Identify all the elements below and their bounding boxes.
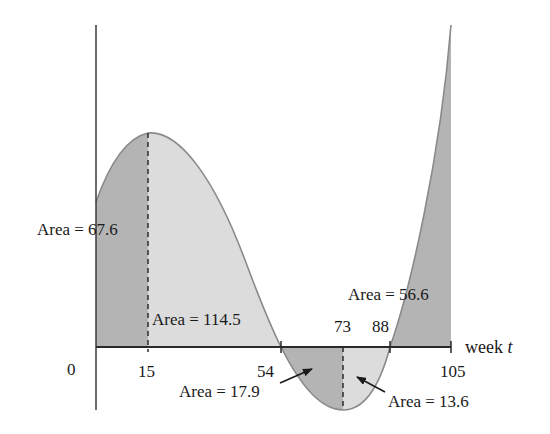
area-label-56-6: Area = 56.6	[348, 286, 429, 303]
x-axis-variable: t	[507, 337, 512, 357]
tick-label-15: 15	[138, 363, 155, 380]
area-label-13-6: Area = 13.6	[388, 393, 469, 410]
tick-label-0: 0	[67, 361, 76, 378]
region-73-88	[343, 347, 390, 410]
area-chart	[0, 0, 550, 434]
area-label-17-9: Area = 17.9	[179, 383, 260, 400]
x-axis-label-text: week	[465, 337, 507, 357]
x-axis-label: week t	[465, 338, 513, 356]
area-label-114-5: Area = 114.5	[152, 311, 241, 328]
tick-label-105: 105	[440, 363, 466, 380]
tick-label-88: 88	[372, 318, 389, 335]
tick-label-54: 54	[257, 363, 274, 380]
region-0-15	[96, 133, 148, 347]
tick-label-73: 73	[334, 318, 351, 335]
area-label-67-6: Area = 67.6	[37, 221, 118, 238]
